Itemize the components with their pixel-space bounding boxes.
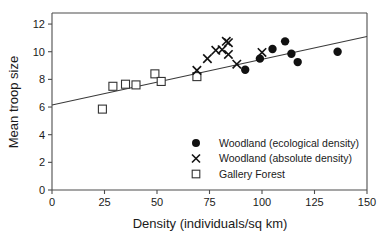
x-tick-label: 150 [358, 196, 376, 208]
data-point-circle [241, 65, 249, 73]
series-woodland-absolute-density [193, 37, 267, 74]
y-tick-label: 0 [39, 184, 45, 196]
trend-line [52, 37, 367, 105]
y-axis-title: Mean troop size [6, 56, 21, 149]
data-point-circle [287, 50, 295, 58]
data-point-cross [224, 50, 232, 58]
y-tick-label: 8 [39, 73, 45, 85]
y-tick-label: 10 [33, 46, 45, 58]
x-tick-label: 75 [203, 196, 215, 208]
data-point-cross [192, 155, 200, 163]
data-point-square [192, 170, 200, 178]
x-tick-label: 100 [253, 196, 271, 208]
y-axis-ticks: 024681012 [33, 18, 52, 196]
data-point-cross [203, 54, 211, 62]
y-tick-label: 2 [39, 156, 45, 168]
data-point-square [98, 105, 106, 113]
x-axis-title: Density (individuals/sq km) [133, 216, 288, 231]
y-tick-label: 6 [39, 101, 45, 113]
x-tick-label: 50 [151, 196, 163, 208]
legend-entry-label: Gallery Forest [219, 168, 285, 180]
data-point-circle [281, 37, 289, 45]
data-point-square [122, 80, 130, 88]
data-point-circle [294, 58, 302, 66]
x-tick-label: 0 [49, 196, 55, 208]
data-point-square [157, 77, 165, 85]
data-point-square [109, 82, 117, 90]
plot-canvas: 024681012 0255075100125150 Density (indi… [0, 0, 389, 236]
x-tick-label: 125 [305, 196, 323, 208]
data-point-circle [333, 48, 341, 56]
data-point-square [132, 81, 140, 89]
data-point-circle [192, 139, 200, 147]
regression-line-group [52, 37, 367, 105]
scatter-plot-figure: 024681012 0255075100125150 Density (indi… [0, 0, 389, 236]
y-tick-label: 4 [39, 129, 45, 141]
legend-entry-label: Woodland (ecological density) [219, 137, 359, 149]
data-point-circle [268, 45, 276, 53]
series-woodland-ecological-density [241, 37, 342, 74]
x-axis-ticks: 0255075100125150 [49, 190, 376, 208]
data-point-square [151, 70, 159, 78]
x-tick-label: 25 [98, 196, 110, 208]
y-tick-label: 12 [33, 18, 45, 30]
chart-legend: Woodland (ecological density)Woodland (a… [192, 137, 359, 180]
data-point-circle [256, 54, 264, 62]
legend-entry-label: Woodland (absolute density) [219, 152, 352, 164]
